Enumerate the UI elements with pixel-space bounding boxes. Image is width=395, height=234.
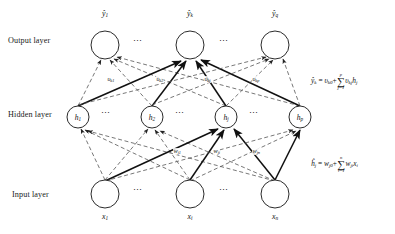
edge-x1-h1 [81,129,105,180]
weight-sub-vkp: kp [255,78,259,83]
weight-label-wji: wji [213,148,220,155]
output-ellipsis-left: ⋯ [133,36,143,46]
weight-sub-vkj: kj [207,78,210,83]
input-var-sub-1: 1 [105,215,108,221]
neural-network-diagram: Output layer Hidden layer Input layer ŷ1… [0,0,395,234]
hidden-var-sub-j: j [227,116,228,122]
output-layer-nodes [91,31,289,59]
eq-out-lhs-sub: k [314,80,316,85]
output-ellipsis-right: ⋯ [219,36,229,46]
output-var-label-1: ŷ1 [97,9,113,18]
weight-label-vk2: υk2 [156,76,164,83]
eq-hid-term2-sub: i [356,163,357,168]
hidden-var-sub-1: 1 [79,116,82,122]
edge-x1-h2 [105,129,148,180]
weight-label-vk1: υk1 [107,76,115,83]
weight-label-wjn: wjn [252,148,260,155]
layer-label-output: Output layer [8,36,50,45]
hidden-var-label-1: h1 [70,113,86,122]
network-graph [0,0,395,234]
eq-out-term2-sub: j [356,80,357,85]
weight-sub-wji: ji [218,150,220,155]
input-ellipsis-left: ⋯ [133,185,143,195]
weight-sub-vk1: k1 [110,78,114,83]
input-var-label-1: x1 [97,212,113,221]
eq-out-equals: = [318,76,322,85]
output-node-1 [91,31,119,59]
output-var-sub-k: k [191,12,193,18]
edge-hj-yk [196,61,226,106]
edges-input-to-hidden [81,129,300,181]
weight-sub-wj1: j1 [178,150,181,155]
layer-label-input: Input layer [12,190,49,199]
input-ellipsis-right: ⋯ [219,185,229,195]
edge-xn-hp [275,130,300,180]
input-var-sub-i: i [191,215,192,221]
output-equation: ŷk = υk0+p∑j=1υkjhj [311,72,357,90]
hidden-ellipsis-2: ⋯ [175,108,185,118]
eq-hid-sum-bottom: i=1 [337,169,345,174]
hidden-ellipsis-1: ⋯ [101,108,111,118]
input-node-i [176,180,204,208]
hidden-equation: ĥj = wj0+n∑i=1wjixi [311,155,358,173]
eq-out-sum-bottom: j=1 [337,86,345,91]
hidden-var-sub-2: 2 [153,116,156,122]
hidden-var-sub-p: p [301,116,304,122]
output-node-q [261,31,289,59]
hidden-var-label-j: hj [218,113,234,122]
hidden-var-label-p: hp [292,113,308,122]
edge-h1-y1 [78,60,101,106]
weight-label-vkp: υkp [252,76,260,83]
input-var-label-n: xn [267,212,283,221]
eq-hid-equals: = [318,159,322,168]
output-var-sub-1: 1 [105,12,108,18]
eq-hid-sum: n∑i=1 [337,156,345,174]
weight-sub-vk2: k2 [159,78,163,83]
output-var-label-q: ŷq [267,9,283,18]
output-node-k [176,31,204,59]
eq-hid-lhs-sub: j [315,163,316,168]
edge-hp-yk [201,60,300,106]
weight-label-wj1: wj1 [173,148,181,155]
hidden-ellipsis-3: ⋯ [249,108,259,118]
input-var-sub-n: n [275,215,278,221]
input-node-n [261,180,289,208]
weight-sub-wjn: jn [257,150,260,155]
eq-out-sum: p∑j=1 [337,73,345,91]
input-var-label-i: xi [182,212,198,221]
input-layer-nodes [91,180,289,208]
output-var-sub-q: q [275,12,278,18]
hidden-var-label-2: h2 [144,113,160,122]
edge-xn-h1 [88,131,275,181]
input-node-1 [91,180,119,208]
layer-label-hidden: Hidden layer [8,110,52,119]
output-var-label-k: ŷk [182,9,198,18]
weight-label-vkj: υkj [204,76,211,83]
